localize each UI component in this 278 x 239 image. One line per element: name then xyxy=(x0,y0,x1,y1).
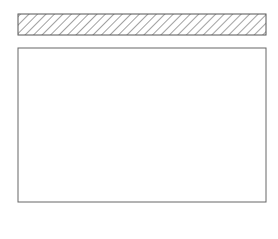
cross-section-strip xyxy=(18,14,266,35)
weld-diagram xyxy=(0,0,278,239)
panel-frame xyxy=(18,48,266,202)
